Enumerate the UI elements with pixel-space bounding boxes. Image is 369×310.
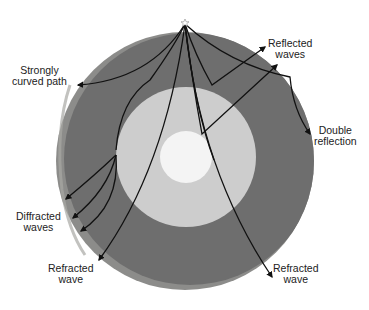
label-reflected-waves: Reflected waves [268,38,312,60]
label-refracted-wave-right: Refracted wave [273,263,319,285]
label-refracted-wave-left: Refracted wave [48,263,94,285]
label-strongly-curved-path: Strongly curved path [12,65,67,87]
earth-disc [56,32,316,290]
label-double-reflection: Double reflection [314,125,357,147]
inner-core-layer [160,131,212,183]
label-diffracted-waves: Diffracted waves [16,211,61,233]
